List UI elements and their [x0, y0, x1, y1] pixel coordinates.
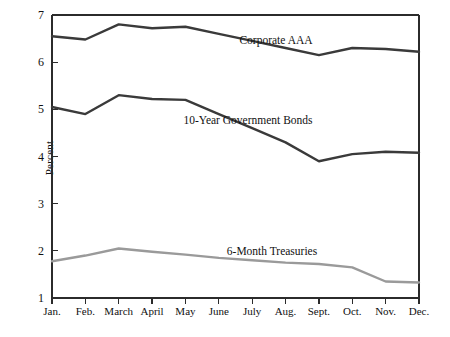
series-line-1	[52, 95, 419, 161]
y-tick-label: 6	[22, 56, 44, 68]
series-layer	[52, 24, 419, 282]
series-label-1: 10-Year Government Bonds	[183, 114, 312, 126]
series-line-0	[52, 24, 419, 55]
series-label-0: Corporate AAA	[239, 34, 312, 46]
axis-layer	[52, 15, 419, 304]
y-tick-label: 1	[22, 292, 44, 304]
y-tick-label: 2	[22, 245, 44, 257]
x-tick-label: Dec.	[395, 305, 443, 317]
y-tick-label: 5	[22, 103, 44, 115]
plot-area	[0, 0, 450, 337]
y-tick-label: 3	[22, 198, 44, 210]
y-tick-label: 7	[22, 9, 44, 21]
y-tick-label: 4	[22, 151, 44, 163]
chart-container: Percent 1234567 Jan.Feb.MarchAprilMayJun…	[0, 0, 450, 337]
series-label-2: 6-Month Treasuries	[227, 245, 317, 257]
